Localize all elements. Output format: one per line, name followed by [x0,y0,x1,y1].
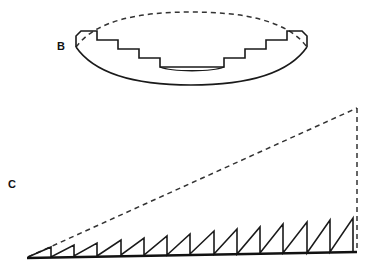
figure-drawing [0,0,369,268]
panel-c-sawtooth [28,218,353,257]
figure-canvas: B C [0,0,369,268]
panel-label-c: C [8,179,16,190]
panel-b-group [76,12,307,85]
panel-c-group [27,108,357,258]
panel-b-dashed-upper-arc [76,12,307,47]
panel-label-b: B [57,41,65,52]
panel-b-staircase [76,31,307,67]
panel-b-lower-arc [76,47,307,85]
